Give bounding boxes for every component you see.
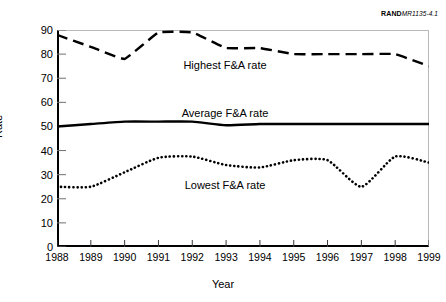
y-tick-label: 30 (5, 169, 53, 180)
x-tick-label: 1997 (350, 252, 373, 263)
x-tick-label: 1991 (147, 252, 170, 263)
x-tick-label: 1999 (417, 252, 440, 263)
y-tick-label: 40 (5, 145, 53, 156)
y-tick-label: 90 (5, 25, 53, 36)
y-tick-label: 70 (5, 73, 53, 84)
x-tick-label: 1990 (113, 252, 136, 263)
y-tick-label: 50 (5, 121, 53, 132)
rand-logo-text: RAND (381, 10, 402, 17)
x-tick-label: 1988 (45, 252, 68, 263)
y-axis-title: Rate (0, 115, 4, 138)
chart-figure: RANDMR1135-4.1 0102030405060708090 Rate … (0, 0, 446, 302)
x-axis-tick-labels: 1988198919901991199219931994199519961997… (57, 252, 429, 268)
x-tick-label: 1996 (316, 252, 339, 263)
x-tick-label: 1998 (383, 252, 406, 263)
x-tick-label: 1993 (214, 252, 237, 263)
x-tick-label: 1995 (282, 252, 305, 263)
y-tick-label: 80 (5, 49, 53, 60)
y-tick-label: 60 (5, 97, 53, 108)
document-id-text: MR1135-4.1 (402, 10, 438, 17)
series-label-lowest: Lowest F&A rate (183, 180, 268, 191)
x-tick-label: 1992 (181, 252, 204, 263)
y-tick-label: 10 (5, 217, 53, 228)
x-tick-label: 1994 (248, 252, 271, 263)
series-label-average: Average F&A rate (180, 108, 271, 119)
y-tick-label: 20 (5, 193, 53, 204)
x-axis-title: Year (0, 278, 446, 290)
series-label-highest: Highest F&A rate (181, 60, 268, 71)
x-tick-label: 1989 (79, 252, 102, 263)
series-line-solid (57, 121, 429, 126)
rand-credit-line: RANDMR1135-4.1 (381, 10, 438, 18)
